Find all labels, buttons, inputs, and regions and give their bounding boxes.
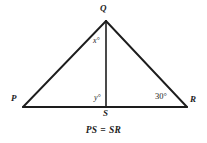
triangle-drawing xyxy=(0,0,207,143)
vertex-label-q: Q xyxy=(100,4,107,13)
angle-label-30-degrees: 30° xyxy=(155,92,167,101)
angle-label-x: x° xyxy=(93,37,100,45)
segment-qr xyxy=(106,21,187,107)
vertex-label-s: S xyxy=(103,109,108,118)
figure-caption: PS = SR xyxy=(0,125,207,135)
geometry-figure: Q P R S x° y° 30° xyxy=(0,0,207,143)
vertex-label-r: R xyxy=(190,95,196,104)
angle-label-y: y° xyxy=(94,94,101,102)
vertex-label-p: P xyxy=(11,94,17,103)
